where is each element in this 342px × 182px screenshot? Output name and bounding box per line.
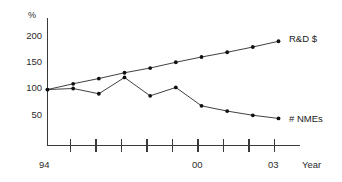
data-point — [123, 76, 127, 80]
y-tick-label-150: 150 — [16, 57, 42, 67]
data-point — [71, 82, 75, 86]
data-point — [174, 60, 178, 64]
y-tick-label-50: 50 — [16, 110, 42, 120]
data-point — [148, 66, 152, 70]
data-point — [148, 94, 152, 98]
data-point — [251, 113, 255, 117]
data-point — [174, 86, 178, 90]
data-point — [123, 71, 127, 75]
y-tick-label-200: 200 — [16, 31, 42, 41]
data-point — [200, 104, 204, 108]
series-label-rd: R&D $ — [289, 34, 317, 44]
data-point — [225, 109, 229, 113]
x-tick-label-03: 03 — [268, 160, 279, 170]
data-point — [97, 77, 101, 81]
x-axis-title: Year — [302, 160, 321, 170]
data-point — [277, 117, 281, 121]
chart-figure: % 200 150 100 50 94 00 03 Year R&D $ # N… — [0, 0, 342, 182]
data-point — [46, 88, 50, 92]
series-line — [48, 41, 279, 89]
y-tick-label-100: 100 — [16, 83, 42, 93]
data-point — [225, 50, 229, 54]
chart-plot-area — [0, 0, 342, 182]
data-point — [251, 45, 255, 49]
series-label-nme: # NMEs — [289, 114, 323, 124]
data-point — [277, 39, 281, 43]
x-tick-label-94: 94 — [39, 160, 50, 170]
data-point — [71, 87, 75, 91]
data-point — [97, 92, 101, 96]
y-axis-unit-label: % — [28, 11, 36, 20]
data-point — [200, 55, 204, 59]
series-layer — [46, 39, 281, 120]
series-rd — [46, 39, 281, 91]
series-line — [48, 77, 279, 118]
x-tick-label-00: 00 — [192, 160, 203, 170]
